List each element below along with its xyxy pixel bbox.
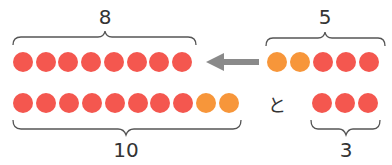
red-dot [127, 52, 147, 72]
red-dot [335, 93, 355, 113]
red-dot [104, 52, 124, 72]
red-dot [81, 52, 101, 72]
red-dot [359, 52, 379, 72]
red-dot [13, 93, 33, 113]
red-dot [172, 52, 192, 72]
red-dot [312, 93, 332, 113]
red-dot [128, 93, 148, 113]
red-dot [336, 52, 356, 72]
diagram-lines [0, 0, 392, 165]
brace-top-right [266, 32, 385, 46]
red-dot [36, 52, 56, 72]
connector-to: と [268, 91, 286, 117]
brace-bottom-right [311, 120, 380, 135]
red-dot [313, 52, 333, 72]
arrow-left-icon [206, 53, 259, 71]
orange-dot [267, 52, 287, 72]
label-three: 3 [340, 138, 353, 162]
red-dot [105, 93, 125, 113]
red-dot [13, 52, 33, 72]
red-dot [358, 93, 378, 113]
brace-top-left [13, 31, 196, 45]
label-eight: 8 [99, 5, 112, 29]
red-dot [36, 93, 56, 113]
label-five: 5 [319, 5, 332, 29]
brace-bottom-left [13, 120, 241, 135]
red-dot [82, 93, 102, 113]
red-dot [59, 93, 79, 113]
orange-dot [219, 93, 239, 113]
orange-dot [290, 52, 310, 72]
label-ten: 10 [113, 138, 138, 162]
